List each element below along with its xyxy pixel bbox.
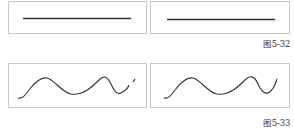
figure-5-32-panel-right xyxy=(150,1,290,34)
straight-line-icon xyxy=(9,2,148,35)
figure-caption-5-33: 图5-33 xyxy=(263,116,290,128)
smooth-wave-icon xyxy=(151,64,291,109)
figure-5-33-panel-left xyxy=(8,63,147,108)
figure-5-32-panel-left xyxy=(8,1,147,34)
figure-5-33-panel-right xyxy=(150,63,290,108)
broken-wave-icon xyxy=(9,64,148,109)
straight-line-icon xyxy=(151,2,291,35)
figure-caption-5-32: 图5-32 xyxy=(263,37,290,49)
